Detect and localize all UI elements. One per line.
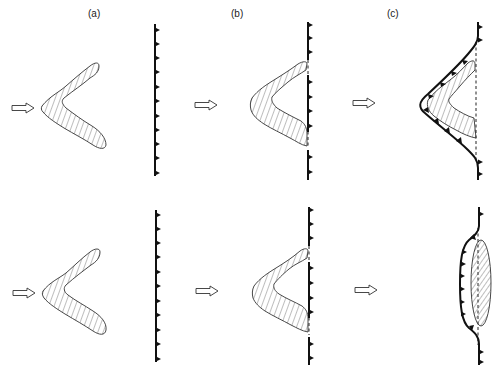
indenter-rotated-lens	[471, 240, 491, 326]
motion-arrow-icon	[13, 288, 35, 298]
top-b	[195, 22, 313, 180]
motion-arrow-icon	[196, 286, 218, 296]
panel-label-a: (a)	[88, 8, 100, 19]
indenter-v-shape	[41, 63, 106, 148]
bottom-c	[355, 207, 491, 365]
thrust-front	[308, 22, 313, 180]
bottom-b	[196, 207, 314, 365]
motion-arrow-icon	[353, 98, 375, 108]
panel-label-b: (b)	[231, 8, 243, 19]
top-a	[12, 24, 160, 176]
indenter-v-shape	[42, 249, 106, 334]
bottom-a	[13, 210, 161, 362]
indenter-v-shape	[252, 249, 308, 332]
top-c	[353, 22, 483, 180]
thrust-front	[156, 210, 161, 362]
motion-arrow-icon	[12, 103, 34, 113]
panel-label-c: (c)	[387, 8, 399, 19]
motion-arrow-icon	[195, 100, 217, 110]
tectonic-indentation-diagram: (a) (b) (c)	[0, 0, 500, 372]
indenter-v-shape	[250, 62, 307, 146]
thrust-front	[309, 207, 314, 365]
motion-arrow-icon	[355, 285, 377, 295]
thrust-front	[155, 24, 160, 176]
